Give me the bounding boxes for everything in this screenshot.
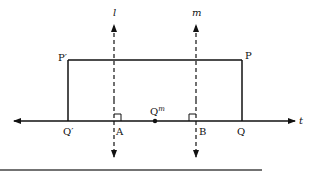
label-q-m: Qm <box>150 105 165 117</box>
right-angle-marker-a <box>114 114 121 121</box>
label-line-t: t <box>299 115 304 126</box>
point-q-m <box>153 119 157 123</box>
label-line-l: l <box>113 7 116 18</box>
label-line-m: m <box>192 7 201 18</box>
reflection-diagram: l m t P′ P Q′ Q A B Qm <box>0 0 315 171</box>
label-p-prime: P′ <box>58 52 68 63</box>
label-q-prime: Q′ <box>63 126 74 137</box>
label-p: P <box>245 50 252 61</box>
right-angle-marker-b <box>189 114 196 121</box>
label-q: Q <box>237 126 245 137</box>
label-b: B <box>199 126 206 137</box>
label-a: A <box>115 126 124 137</box>
